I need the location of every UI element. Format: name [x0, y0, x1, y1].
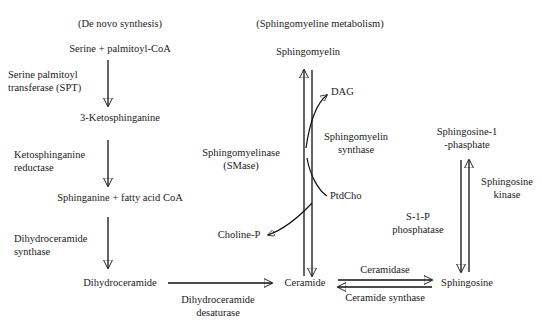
enzyme-sphingosine-kinase-line2: kinase	[494, 189, 521, 202]
metabolite-choline-p: Choline-P	[218, 229, 261, 242]
metabolite-sphingosine-1-phosphate-line2: -phasphate	[444, 139, 489, 152]
metabolite-3-ketosphinganine: 3-Ketosphinganine	[80, 112, 160, 125]
metabolite-ceramide: Ceramide	[285, 277, 326, 290]
enzyme-ketosphinganine-reductase-line1: Ketosphinganine	[14, 149, 85, 162]
enzyme-dihydroceramide-desaturase-line2: desaturase	[196, 307, 240, 320]
metabolite-sphingosine-1-phosphate-line1: Sphingosine-1	[437, 126, 498, 139]
enzyme-ceramide-synthase: Ceramide synthase	[345, 292, 425, 305]
enzyme-spt-line2: transferase (SPT)	[8, 82, 81, 95]
metabolite-dag: DAG	[331, 86, 354, 99]
metabolite-sphinganine-fatty-acid-coa: Sphinganine + fatty acid CoA	[57, 192, 182, 205]
curve-from-ptdcho	[307, 158, 327, 196]
enzyme-sphingomyelinase-line1: Sphingomyelinase	[202, 147, 280, 160]
metabolite-sphingomyelin: Sphingomyelin	[276, 46, 340, 59]
enzyme-sphingomyelin-synthase-line2: synthase	[338, 144, 374, 157]
metabolite-sphingosine: Sphingosine	[441, 277, 493, 290]
pathway-diagram: (De novo synthesis) (Sphingomyeline meta…	[0, 0, 542, 333]
enzyme-sphingomyelin-synthase-line1: Sphingomyelin	[324, 131, 388, 144]
enzyme-ceramidase: Ceramidase	[360, 264, 410, 277]
enzyme-sphingomyelinase-line2: (SMase)	[223, 160, 259, 173]
metabolite-serine-palmitoyl-coa: Serine + palmitoyl-CoA	[69, 43, 171, 56]
section-title-sphingomyelin: (Sphingomyeline metabolism)	[256, 18, 383, 31]
metabolite-ptdcho: PtdCho	[330, 190, 362, 203]
enzyme-dihydroceramide-synthase-line2: synthase	[14, 246, 50, 259]
curve-to-choline-p	[268, 203, 312, 235]
enzyme-s1p-phosphatase-line1: S-1-P	[406, 211, 430, 224]
metabolite-dihydroceramide: Dihydroceramide	[83, 277, 156, 290]
enzyme-s1p-phosphatase-line2: phosphatase	[392, 224, 443, 237]
enzyme-spt-line1: Serine palmitoyl	[8, 69, 78, 82]
enzyme-sphingosine-kinase-line1: Sphingosine	[481, 176, 533, 189]
enzyme-dihydroceramide-desaturase-line1: Dihydroceramide	[181, 294, 254, 307]
enzyme-dihydroceramide-synthase-line1: Dihydroceramide	[14, 233, 87, 246]
section-title-de-novo: (De novo synthesis)	[78, 18, 162, 31]
enzyme-ketosphinganine-reductase-line2: reductase	[14, 162, 54, 175]
